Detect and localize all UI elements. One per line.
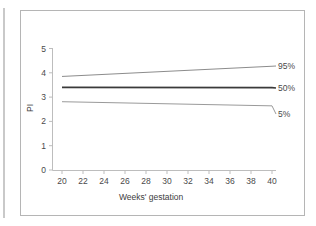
x-tick-label: 26 — [120, 176, 129, 186]
x-tick-label: 40 — [267, 176, 276, 186]
y-tick-label: 3 — [34, 92, 46, 102]
x-tick-label: 30 — [162, 176, 171, 186]
x-axis-title: Weeks' gestation — [119, 192, 183, 202]
x-tick-label: 20 — [57, 176, 66, 186]
y-tick-label: 1 — [34, 141, 46, 151]
figure-container: 5 4 3 2 1 0 20 22 24 26 28 30 32 34 36 3… — [0, 0, 316, 226]
y-axis-title: PI — [25, 94, 35, 122]
series-label-95: 95% — [278, 61, 295, 71]
x-tick-marks — [62, 171, 272, 175]
y-tick-label: 0 — [34, 165, 46, 175]
series-line-5 — [62, 102, 272, 106]
x-tick-label: 24 — [99, 176, 108, 186]
series-label-50: 50% — [278, 83, 295, 93]
y-tick-label: 4 — [34, 68, 46, 78]
x-tick-label: 38 — [246, 176, 255, 186]
x-tick-label: 22 — [78, 176, 87, 186]
x-tick-label: 36 — [225, 176, 234, 186]
y-tick-label: 2 — [34, 116, 46, 126]
leader-line-5 — [272, 106, 276, 114]
x-tick-label: 28 — [141, 176, 150, 186]
x-tick-label: 34 — [204, 176, 213, 186]
x-tick-label: 32 — [183, 176, 192, 186]
series-leader-lines — [272, 66, 276, 114]
y-tick-marks — [49, 49, 53, 171]
series-line-95 — [62, 66, 272, 76]
y-tick-label: 5 — [34, 44, 46, 54]
series-label-5: 5% — [278, 109, 290, 119]
series-lines — [62, 66, 272, 106]
